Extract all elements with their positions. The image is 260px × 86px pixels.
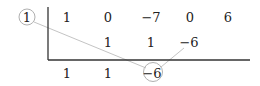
coefficient-5: 6 — [224, 11, 232, 24]
middle-value-3: 1 — [147, 36, 155, 49]
synthetic-division-diagram: 1 1 0 −7 0 6 1 1 −6 1 1 −6 — [0, 0, 260, 86]
result-value-1: 1 — [63, 67, 71, 80]
divisor-value: 1 — [23, 11, 31, 24]
coefficient-1: 1 — [63, 11, 71, 24]
coefficient-4: 0 — [186, 11, 194, 24]
coefficient-3: −7 — [141, 11, 160, 24]
middle-value-4: −6 — [179, 36, 198, 49]
diagram-lines — [0, 0, 260, 86]
connector-line-result — [161, 48, 184, 67]
connector-line-divisor — [34, 22, 146, 68]
result-value-2: 1 — [104, 67, 112, 80]
middle-value-2: 1 — [104, 36, 112, 49]
result-value-3-highlighted: −6 — [142, 67, 161, 80]
coefficient-2: 0 — [104, 11, 112, 24]
